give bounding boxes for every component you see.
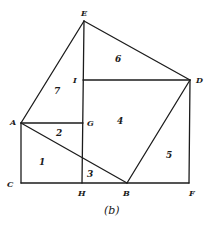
region-label-5: 5 <box>166 150 172 160</box>
point-labels: E I D A G C H B F <box>7 8 203 198</box>
region-label-1: 1 <box>39 157 45 167</box>
segment-BA <box>21 123 127 183</box>
point-label-B: B <box>122 188 130 198</box>
region-label-4: 4 <box>117 116 123 126</box>
region-label-3: 3 <box>87 169 93 179</box>
region-label-2: 2 <box>55 128 62 138</box>
point-label-F: F <box>188 188 196 198</box>
segment-DB <box>127 80 190 183</box>
segments <box>21 21 190 183</box>
point-label-I: I <box>72 75 77 85</box>
segment-FD <box>189 80 190 183</box>
point-label-G: G <box>87 118 94 128</box>
region-label-6: 6 <box>115 54 122 64</box>
point-label-A: A <box>9 117 16 127</box>
point-label-D: D <box>195 75 203 85</box>
region-label-7: 7 <box>54 86 61 96</box>
segment-AE <box>21 21 84 123</box>
segment-ED <box>84 21 190 80</box>
point-label-E: E <box>80 8 88 18</box>
figure-caption: (b) <box>104 204 120 217</box>
region-labels: 1 2 3 4 5 6 7 <box>39 54 172 179</box>
geometry-diagram: E I D A G C H B F 1 2 3 4 5 6 7 (b) <box>0 0 213 227</box>
point-label-C: C <box>7 179 14 189</box>
point-label-H: H <box>77 188 86 198</box>
